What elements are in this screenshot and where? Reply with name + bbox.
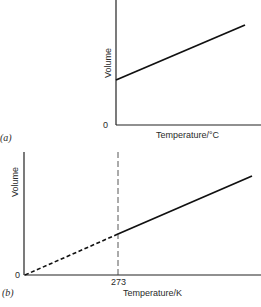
chart-b-y-axis-label: Volume — [10, 167, 20, 197]
chart-a-panel-label: (a) — [0, 132, 12, 144]
chart-a-x-axis-label: Temperature/°C — [156, 130, 220, 140]
chart-b-tick-273: 273 — [111, 277, 126, 287]
chart-b-extrapolated-line — [25, 234, 118, 275]
charts-canvas: 0 Temperature/°C Volume (a) 0 273 Temper… — [0, 0, 261, 307]
chart-a-origin-label: 0 — [103, 120, 108, 130]
chart-a-data-line — [116, 25, 245, 80]
chart-b-panel-label: (b) — [2, 287, 14, 299]
chart-b-x-axis-label: Temperature/K — [123, 288, 182, 298]
chart-b: 0 273 Temperature/K Volume (b) — [2, 152, 261, 299]
chart-b-origin-label: 0 — [15, 270, 20, 280]
chart-a-y-axis-label: Volume — [103, 48, 113, 78]
chart-a: 0 Temperature/°C Volume (a) — [0, 0, 261, 144]
chart-b-data-line — [118, 176, 252, 234]
